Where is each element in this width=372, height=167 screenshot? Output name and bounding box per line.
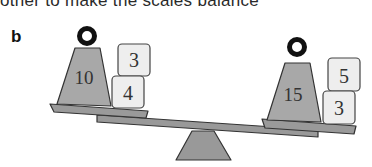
left-weight-ring-icon <box>80 29 95 44</box>
right-weight-label: 15 <box>284 84 303 105</box>
right-box-bottom-label: 3 <box>334 97 344 119</box>
right-weight-ring-icon <box>290 40 305 55</box>
left-weight-label: 10 <box>75 67 94 88</box>
right-pan-group: 15 5 3 <box>262 40 360 135</box>
fulcrum <box>176 131 231 160</box>
balance-scale-diagram: 10 3 4 15 5 3 <box>0 0 372 167</box>
right-box-top-label: 5 <box>339 65 349 87</box>
left-box-bottom-label: 4 <box>123 82 133 104</box>
left-pan-group: 10 3 4 <box>50 29 150 119</box>
left-box-top-label: 3 <box>129 49 139 71</box>
